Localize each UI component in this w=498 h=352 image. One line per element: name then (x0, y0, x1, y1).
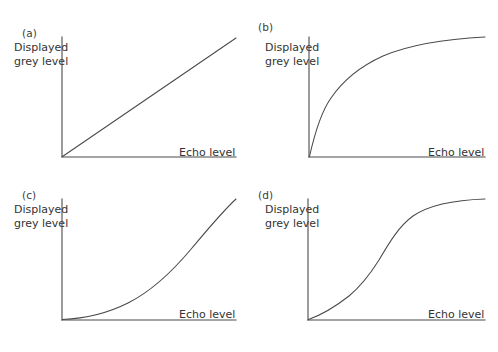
panel-b-plot (249, 0, 498, 176)
panel-d-curve-sigmoid (309, 199, 486, 320)
figure-transfer-curves: (a) Displayed grey level Echo level (b) … (0, 0, 498, 352)
panel-b-curve-logarithmic (310, 37, 486, 157)
panel-c-curve-exponential (63, 199, 237, 320)
panel-a: (a) Displayed grey level Echo level (0, 0, 249, 176)
panel-d-plot (249, 176, 498, 352)
panel-d: (d) Displayed grey level Echo level (249, 176, 498, 352)
panel-a-plot (0, 0, 249, 176)
panel-a-curve-linear (63, 38, 237, 157)
panel-b: (b) Displayed grey level Echo level (249, 0, 498, 176)
panel-c: (c) Displayed grey level Echo level (0, 176, 249, 352)
panel-c-plot (0, 176, 249, 352)
